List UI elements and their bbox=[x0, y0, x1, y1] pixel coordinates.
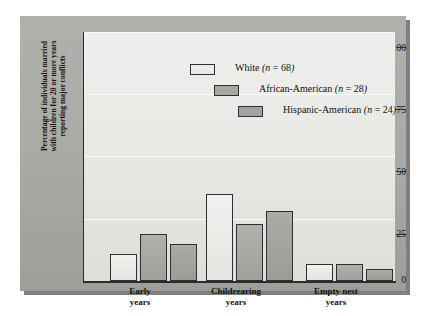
bar-group-empty-nest-years bbox=[306, 32, 394, 281]
y-axis-title-line-2: with children for 20 or more years bbox=[49, 0, 58, 196]
bar-group-early-years bbox=[110, 32, 198, 281]
y-axis-title: Percentage of individuals married with c… bbox=[40, 0, 68, 196]
x-axis-line bbox=[83, 281, 396, 283]
y-axis-line bbox=[83, 32, 84, 282]
plot-area: White (n = 68) African-American (n = 28)… bbox=[84, 32, 395, 281]
bar-african-american-early-years bbox=[140, 234, 167, 281]
y-axis-title-line-3: reporting major conflicts bbox=[58, 0, 67, 196]
bar-white-childrearing-years bbox=[206, 194, 233, 281]
figure: Percentage of individuals married with c… bbox=[0, 0, 431, 316]
bar-white-empty-nest-years bbox=[306, 264, 333, 281]
bar-african-american-childrearing-years bbox=[236, 224, 263, 281]
chart-panel: Percentage of individuals married with c… bbox=[20, 16, 406, 291]
y-tick-mark-100 bbox=[396, 47, 406, 48]
x-category-label-early-years: Early years bbox=[90, 286, 190, 307]
bar-hispanic-american-early-years bbox=[170, 244, 197, 281]
x-category-label-early-years-line-1: Early bbox=[90, 286, 190, 297]
x-category-label-childrearing-years-line-2: years bbox=[186, 297, 286, 308]
y-tick-mark-75 bbox=[396, 109, 406, 110]
y-tick-mark-50 bbox=[396, 171, 406, 172]
y-axis-title-wrapper: Percentage of individuals married with c… bbox=[40, 0, 80, 196]
y-axis-title-line-1: Percentage of individuals married bbox=[40, 0, 49, 196]
bar-hispanic-american-childrearing-years bbox=[266, 211, 293, 281]
x-category-label-empty-nest-years-line-1: Empty nest bbox=[286, 286, 386, 297]
bar-group-childrearing-years bbox=[206, 32, 294, 281]
x-category-label-early-years-line-2: years bbox=[90, 297, 190, 308]
y-tick-mark-25 bbox=[396, 234, 406, 235]
bar-hispanic-american-empty-nest-years bbox=[366, 269, 393, 281]
bar-african-american-empty-nest-years bbox=[336, 264, 363, 281]
x-category-label-childrearing-years-line-1: Childrearing bbox=[186, 286, 286, 297]
x-category-label-childrearing-years: Childrearing years bbox=[186, 286, 286, 307]
x-category-label-empty-nest-years: Empty nest years bbox=[286, 286, 386, 307]
bar-white-early-years bbox=[110, 254, 137, 281]
x-category-label-empty-nest-years-line-2: years bbox=[286, 297, 386, 308]
